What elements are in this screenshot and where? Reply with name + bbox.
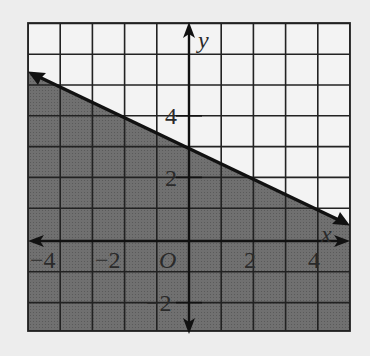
y-tick-label: 4 <box>165 103 177 129</box>
x-tick-label: 2 <box>244 247 256 273</box>
y-tick-label: −2 <box>146 290 172 316</box>
inequality-graph: y x O −4 −2 2 4 4 2 −2 <box>0 0 370 356</box>
x-tick-label: 4 <box>308 247 320 273</box>
x-axis-label: x <box>320 221 332 247</box>
x-tick-label: −2 <box>95 247 121 273</box>
y-tick-label: 2 <box>165 165 177 191</box>
y-axis-label: y <box>196 27 209 53</box>
origin-label: O <box>159 247 176 273</box>
x-tick-label: −4 <box>30 247 56 273</box>
